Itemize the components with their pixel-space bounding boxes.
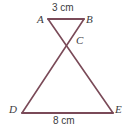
vertex-label-b: B (86, 14, 93, 25)
vertex-label-a: A (37, 14, 44, 25)
measurement-label-de: 8 cm (53, 116, 75, 126)
geometry-canvas (0, 0, 129, 130)
measurement-label-ab: 3 cm (52, 3, 74, 13)
vertex-label-e: E (115, 104, 122, 115)
geometry-figure: A B C D E 3 cm 8 cm (0, 0, 129, 130)
vertex-label-d: D (9, 104, 17, 115)
vertex-label-c: C (76, 35, 83, 46)
segment-bd (22, 19, 84, 113)
